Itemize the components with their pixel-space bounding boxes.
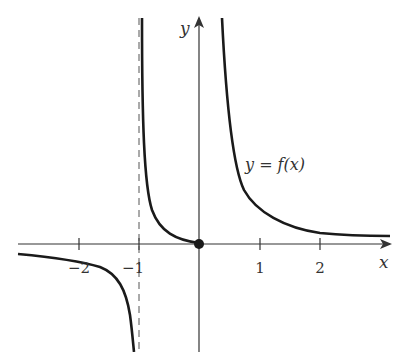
- x-axis-label: x: [379, 252, 389, 272]
- origin-point: [194, 239, 204, 249]
- curve-right-branch: [222, 18, 390, 236]
- y-axis-label: y: [179, 18, 190, 38]
- tick-label-2: 2: [315, 259, 325, 277]
- tick-label-1: 1: [255, 259, 265, 277]
- function-graph: y x y = f(x) −2 −1 1 2: [0, 0, 397, 352]
- tick-label-minus-1: −1: [122, 259, 144, 277]
- function-label: y = f(x): [244, 155, 305, 174]
- tick-label-minus-2: −2: [68, 259, 90, 277]
- curve-middle-branch: [142, 18, 199, 243]
